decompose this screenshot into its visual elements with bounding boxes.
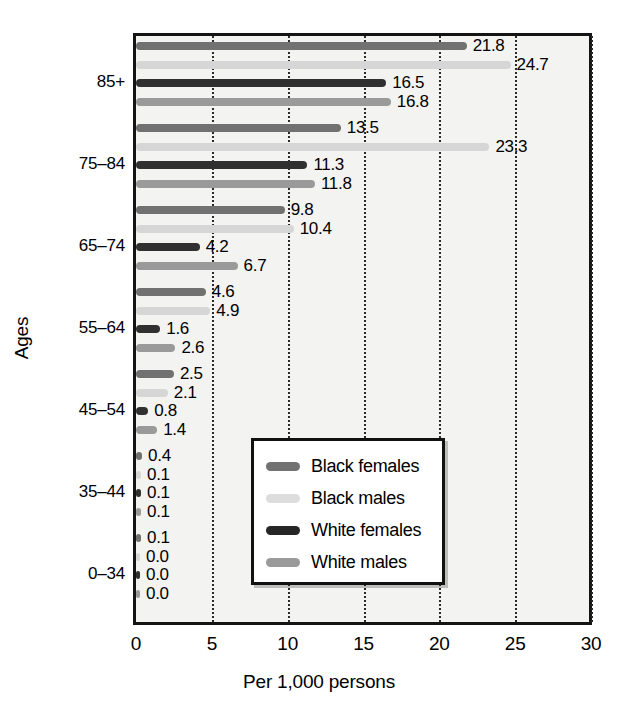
chart-legend: Black femalesBlack malesWhite femalesWhi… <box>251 438 445 585</box>
bar-85-white-males <box>136 98 391 106</box>
bar-value-label: 4.6 <box>212 283 235 300</box>
x-tick-25: 25 <box>505 633 526 655</box>
bar-value-label: 13.5 <box>347 119 379 136</box>
bar-value-label: 2.6 <box>181 339 204 356</box>
bar-4554-white-males <box>136 426 157 434</box>
bar-5564-black-females <box>136 288 206 296</box>
bar-034-white-females <box>136 571 140 579</box>
y-tick-034: 0–34 <box>88 564 125 584</box>
bar-value-label: 1.4 <box>163 421 186 438</box>
legend-label: Black males <box>311 488 405 509</box>
x-tick-20: 20 <box>429 633 450 655</box>
bar-value-label: 0.8 <box>154 402 177 419</box>
bar-value-label: 16.8 <box>397 93 429 110</box>
bar-7584-white-females <box>136 161 307 169</box>
legend-item-black-females[interactable]: Black females <box>266 451 419 481</box>
bar-value-label: 2.1 <box>174 384 197 401</box>
bar-4554-black-males <box>136 389 168 397</box>
bar-value-label: 11.8 <box>321 175 352 192</box>
bar-6574-black-females <box>136 206 285 214</box>
legend-swatch-icon <box>266 494 300 503</box>
bar-value-label: 4.2 <box>206 238 229 255</box>
y-axis-tick-labels: 85+75–8465–7455–6445–5435–440–34 <box>0 0 125 715</box>
bar-value-label: 0.1 <box>147 529 170 546</box>
bar-3544-white-males <box>136 508 141 516</box>
legend-item-white-females[interactable]: White females <box>266 515 421 545</box>
bar-value-label: 9.8 <box>291 201 314 218</box>
bar-value-label: 0.0 <box>146 566 169 583</box>
bar-3544-black-males <box>136 471 141 479</box>
bar-value-label: 11.3 <box>313 156 344 173</box>
bar-7584-white-males <box>136 180 315 188</box>
legend-swatch-icon <box>266 558 300 567</box>
legend-label: White males <box>311 552 407 573</box>
bar-value-label: 0.1 <box>147 466 170 483</box>
bar-4554-black-females <box>136 370 174 378</box>
bar-value-label: 21.8 <box>473 37 505 54</box>
bar-7584-black-males <box>136 143 489 151</box>
bar-value-label: 6.7 <box>244 257 267 274</box>
bar-6574-white-females <box>136 243 200 251</box>
bar-value-label: 0.0 <box>146 548 169 565</box>
y-tick-5564: 55–64 <box>79 318 125 338</box>
legend-label: White females <box>311 520 421 541</box>
bar-6574-white-males <box>136 262 238 270</box>
y-tick-85: 85+ <box>97 72 125 92</box>
bar-value-label: 0.1 <box>147 503 170 520</box>
x-axis-title: Per 1,000 persons <box>0 671 638 693</box>
bar-5564-black-males <box>136 307 210 315</box>
y-tick-4554: 45–54 <box>79 400 125 420</box>
bar-chart-figure: Ages 85+75–8465–7455–6445–5435–440–34 21… <box>0 0 638 715</box>
bar-value-label: 16.5 <box>392 74 424 91</box>
bar-85-white-females <box>136 79 386 87</box>
gridline-x-25 <box>515 36 517 622</box>
y-tick-3544: 35–44 <box>79 482 125 502</box>
bar-value-label: 23.3 <box>495 138 527 155</box>
bar-6574-black-males <box>136 225 294 233</box>
bar-034-white-males <box>136 590 140 598</box>
bar-85-black-males <box>136 61 511 69</box>
bar-value-label: 1.6 <box>166 320 189 337</box>
x-tick-10: 10 <box>277 633 298 655</box>
legend-item-white-males[interactable]: White males <box>266 547 407 577</box>
x-tick-0: 0 <box>131 633 141 655</box>
bar-85-black-females <box>136 42 467 50</box>
x-tick-30: 30 <box>581 633 602 655</box>
x-tick-5: 5 <box>207 633 217 655</box>
legend-label: Black females <box>311 456 419 477</box>
bar-value-label: 0.1 <box>147 484 170 501</box>
bar-value-label: 24.7 <box>517 56 549 73</box>
bar-034-black-females <box>136 534 141 542</box>
bar-value-label: 0.0 <box>146 585 169 602</box>
bar-5564-white-males <box>136 344 175 352</box>
bar-3544-black-females <box>136 452 142 460</box>
bar-034-black-males <box>136 553 140 561</box>
bar-4554-white-females <box>136 407 148 415</box>
legend-item-black-males[interactable]: Black males <box>266 483 405 513</box>
gridline-x-30 <box>591 36 593 622</box>
bar-value-label: 0.4 <box>148 447 171 464</box>
y-tick-7584: 75–84 <box>79 154 125 174</box>
bar-5564-white-females <box>136 325 160 333</box>
bar-value-label: 2.5 <box>180 365 203 382</box>
legend-swatch-icon <box>266 462 300 471</box>
bar-value-label: 10.4 <box>300 220 332 237</box>
x-tick-15: 15 <box>353 633 374 655</box>
y-tick-6574: 65–74 <box>79 236 125 256</box>
bar-value-label: 4.9 <box>216 302 239 319</box>
bar-7584-black-females <box>136 124 341 132</box>
bar-3544-white-females <box>136 489 141 497</box>
legend-swatch-icon <box>266 526 300 535</box>
